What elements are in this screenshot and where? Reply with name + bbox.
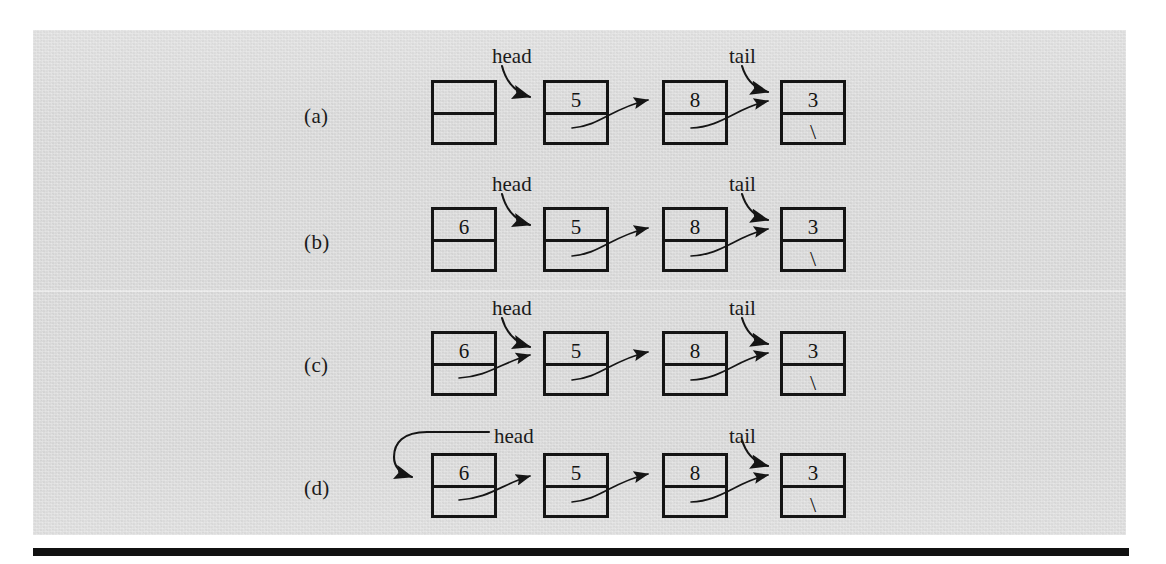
node-divider <box>431 485 497 488</box>
row-b-node-3-value: 8 <box>665 217 725 238</box>
row-a-node-3: 8 <box>662 80 728 145</box>
row-b-node-2-value: 5 <box>546 217 606 238</box>
node-divider <box>662 239 728 242</box>
bottom-rule <box>33 548 1129 556</box>
row-d-node-3: 8 <box>662 453 728 518</box>
row-d-node-2: 5 <box>543 453 609 518</box>
row-c-node-1: 6 <box>431 331 497 396</box>
row-d-node-4-value: 3 <box>783 463 843 484</box>
row-d-node-4: 3 \ <box>780 453 846 518</box>
node-divider <box>543 239 609 242</box>
row-label-d: (d) <box>304 476 330 501</box>
node-divider <box>543 485 609 488</box>
row-label-b: (b) <box>304 230 330 255</box>
row-d-node-1-value: 6 <box>434 463 494 484</box>
row-c-node-4-next: \ <box>783 372 843 394</box>
node-divider <box>431 112 497 115</box>
row-d-tail-label: tail <box>729 424 756 449</box>
row-a-node-4: 3 \ <box>780 80 846 145</box>
node-divider <box>662 363 728 366</box>
row-b-node-1: 6 <box>431 207 497 272</box>
node-divider <box>662 112 728 115</box>
row-c-node-3: 8 <box>662 331 728 396</box>
row-a-node-4-next: \ <box>783 121 843 143</box>
row-d-node-2-value: 5 <box>546 463 606 484</box>
row-b-node-3: 8 <box>662 207 728 272</box>
node-divider <box>662 485 728 488</box>
row-a-node-4-value: 3 <box>783 90 843 111</box>
row-c-node-2: 5 <box>543 331 609 396</box>
row-a-tail-label: tail <box>729 44 756 69</box>
node-divider <box>543 363 609 366</box>
row-a-node-1 <box>431 80 497 145</box>
row-a-head-label: head <box>492 44 532 69</box>
row-d-head-label: head <box>494 424 534 449</box>
row-c-head-label: head <box>492 296 532 321</box>
row-d-node-1: 6 <box>431 453 497 518</box>
node-divider <box>780 485 846 488</box>
node-divider <box>780 239 846 242</box>
node-divider <box>431 363 497 366</box>
row-d-node-3-value: 8 <box>665 463 725 484</box>
row-b-tail-label: tail <box>729 172 756 197</box>
row-c-tail-label: tail <box>729 296 756 321</box>
row-b-node-4: 3 \ <box>780 207 846 272</box>
row-b-node-4-value: 3 <box>783 217 843 238</box>
row-c-node-1-value: 6 <box>434 341 494 362</box>
row-a-node-2-value: 5 <box>546 90 606 111</box>
row-b-node-4-next: \ <box>783 248 843 270</box>
row-c-node-4: 3 \ <box>780 331 846 396</box>
row-d-node-4-next: \ <box>783 494 843 516</box>
figure-page: (a) 5 8 3 \ head tail (b) 6 5 8 3 <box>0 0 1166 564</box>
row-b-node-1-value: 6 <box>434 217 494 238</box>
row-b-node-2: 5 <box>543 207 609 272</box>
row-a-node-3-value: 8 <box>665 90 725 111</box>
row-a-node-2: 5 <box>543 80 609 145</box>
row-c-node-4-value: 3 <box>783 341 843 362</box>
node-divider <box>543 112 609 115</box>
node-divider <box>431 239 497 242</box>
row-label-a: (a) <box>304 104 329 129</box>
row-c-node-2-value: 5 <box>546 341 606 362</box>
row-c-node-3-value: 8 <box>665 341 725 362</box>
row-b-head-label: head <box>492 172 532 197</box>
row-label-c: (c) <box>304 353 329 378</box>
node-divider <box>780 363 846 366</box>
node-divider <box>780 112 846 115</box>
